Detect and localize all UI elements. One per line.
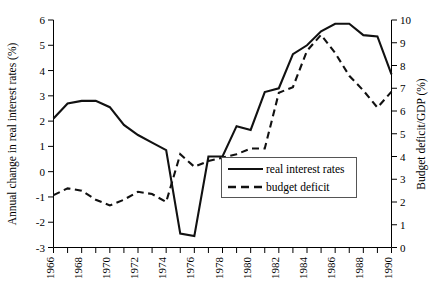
- dual-axis-line-chart: 6543210-1-2-3 Annual change in real inte…: [0, 0, 437, 302]
- left-tick-label-5: 5: [40, 39, 46, 51]
- right-tick-label-10: 10: [400, 14, 412, 26]
- legend-label-budget-deficit: budget deficit: [266, 181, 330, 194]
- left-tick-label--2: -2: [36, 216, 45, 228]
- chart-background: [0, 0, 437, 302]
- x-tick-label-1990: 1990: [382, 257, 394, 280]
- chart-figure: 6543210-1-2-3 Annual change in real inte…: [0, 0, 437, 302]
- right-tick-label-8: 8: [400, 60, 406, 72]
- x-tick-label-1980: 1980: [241, 257, 253, 280]
- left-tick-label-4: 4: [40, 65, 46, 77]
- right-tick-label-7: 7: [400, 82, 406, 94]
- right-tick-label-0: 0: [400, 242, 406, 254]
- right-tick-label-4: 4: [400, 151, 406, 163]
- right-tick-label-1: 1: [400, 219, 406, 231]
- right-tick-label-5: 5: [400, 128, 406, 140]
- x-tick-label-1974: 1974: [156, 257, 168, 280]
- left-tick-label-1: 1: [40, 140, 46, 152]
- x-tick-label-1970: 1970: [100, 257, 112, 280]
- x-tick-label-1968: 1968: [72, 257, 84, 280]
- x-tick-label-1988: 1988: [353, 257, 365, 280]
- left-tick-label-2: 2: [40, 115, 46, 127]
- right-axis-title: Budget deficit/GDP (%): [415, 78, 428, 190]
- left-tick-label--3: -3: [36, 242, 46, 254]
- x-tick-label-1976: 1976: [184, 257, 196, 280]
- legend: real interest rates budget deficit: [222, 158, 357, 198]
- left-tick-label-0: 0: [40, 166, 46, 178]
- x-tick-label-1966: 1966: [44, 257, 56, 280]
- left-tick-label--1: -1: [36, 191, 45, 203]
- right-tick-label-3: 3: [400, 173, 406, 185]
- x-tick-label-1984: 1984: [297, 257, 309, 280]
- right-tick-label-9: 9: [400, 37, 406, 49]
- x-tick-label-1986: 1986: [325, 257, 337, 280]
- left-tick-label-6: 6: [40, 14, 46, 26]
- legend-label-real-interest-rates: real interest rates: [266, 163, 345, 175]
- right-tick-label-6: 6: [400, 105, 406, 117]
- x-tick-label-1972: 1972: [128, 257, 140, 279]
- x-tick-label-1978: 1978: [213, 257, 225, 280]
- x-tick-label-1982: 1982: [269, 257, 281, 279]
- left-axis-title: Annual change in real interest rates (%): [6, 43, 19, 226]
- left-tick-label-3: 3: [40, 90, 46, 102]
- right-tick-label-2: 2: [400, 196, 406, 208]
